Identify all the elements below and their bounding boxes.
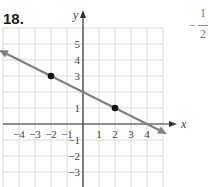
y-tick-label: 4 [75,54,81,66]
answer-sign: − [189,18,196,33]
x-tick-label: 2 [112,128,118,140]
x-axis-label: x [180,117,187,131]
data-point [48,73,55,80]
y-axis-arrow-icon [80,10,86,18]
y-axis-label: y [72,8,79,22]
y-tick-label: 3 [75,70,81,82]
y-tick-label: 5 [75,38,81,50]
y-tick-label: −3 [68,166,80,178]
x-axis-arrow-icon [169,121,177,127]
x-tick-label: 3 [128,128,134,140]
x-tick-label: −4 [13,128,25,140]
x-tick-label: −3 [29,128,41,140]
x-tick-label: 4 [144,128,150,140]
answer-denominator: 2 [200,27,206,42]
y-tick-label: 1 [75,102,81,114]
data-point [112,105,119,112]
answer-numerator: 1 [200,6,206,21]
y-tick-label: −2 [68,150,80,162]
y-tick-label: −1 [68,134,80,146]
x-tick-label: 1 [96,128,102,140]
fraction-bar [198,25,208,26]
coordinate-graph: xy−4−3−2−112345431−1−2−3 [0,0,210,187]
x-tick-label: −2 [45,128,57,140]
